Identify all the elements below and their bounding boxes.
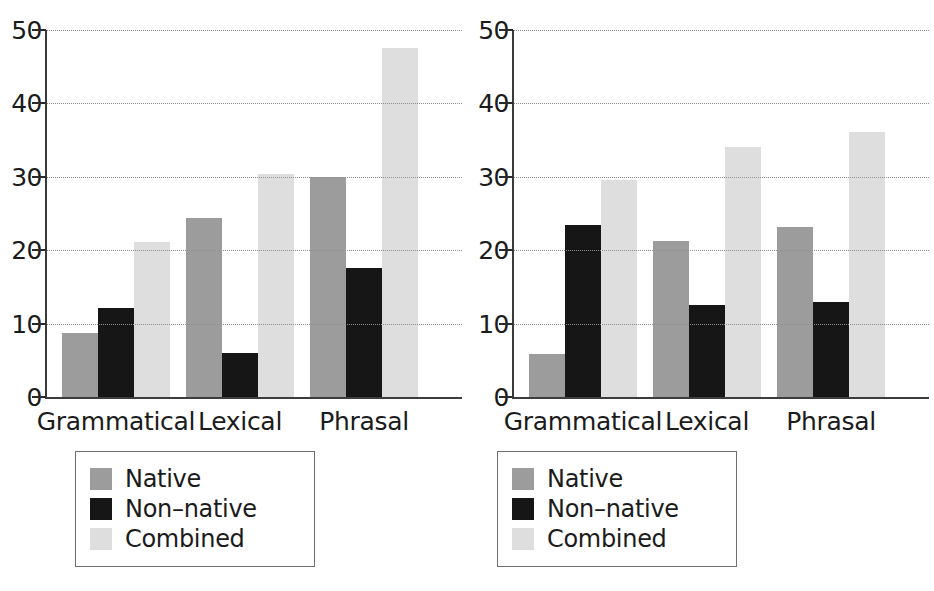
bars-layer-right bbox=[467, 0, 934, 440]
bar-nonnative-phrasal bbox=[346, 268, 382, 397]
bar-combined-phrasal bbox=[849, 132, 885, 397]
x-axis-baseline bbox=[512, 397, 929, 399]
gridline bbox=[45, 30, 462, 31]
y-axis-tick-mark bbox=[499, 176, 513, 178]
y-axis-tick-mark bbox=[32, 102, 46, 104]
legend-label-native: Native bbox=[125, 465, 201, 493]
y-axis-tick-mark bbox=[32, 323, 46, 325]
gridline bbox=[512, 103, 929, 104]
two-panel-bar-chart-figure: 01020304050 GrammaticalLexicalPhrasal Na… bbox=[0, 0, 934, 591]
legend-label-nonnative: Non–native bbox=[547, 495, 679, 523]
bar-native-phrasal bbox=[777, 227, 813, 397]
bars-layer-left bbox=[0, 0, 467, 440]
gridline bbox=[45, 177, 462, 178]
legend-left: Native Non–native Combined bbox=[75, 451, 315, 567]
legend-item: Combined bbox=[512, 524, 720, 554]
gridline bbox=[512, 250, 929, 251]
y-axis-tick-mark bbox=[499, 323, 513, 325]
y-axis-tick-mark bbox=[499, 396, 513, 398]
legend-label-nonnative: Non–native bbox=[125, 495, 257, 523]
bar-native-grammatical bbox=[529, 354, 565, 397]
bar-combined-grammatical bbox=[601, 180, 637, 397]
bar-nonnative-grammatical bbox=[98, 308, 134, 397]
bar-combined-phrasal bbox=[382, 48, 418, 397]
y-axis-tick-mark bbox=[32, 176, 46, 178]
bar-native-phrasal bbox=[310, 177, 346, 397]
gridline bbox=[45, 324, 462, 325]
bar-combined-grammatical bbox=[134, 242, 170, 397]
plot-area-left: 01020304050 GrammaticalLexicalPhrasal bbox=[0, 0, 467, 440]
y-axis-spine bbox=[512, 30, 514, 397]
legend-label-native: Native bbox=[547, 465, 623, 493]
bar-native-lexical bbox=[186, 218, 222, 397]
y-axis-tick-mark bbox=[499, 102, 513, 104]
bar-native-grammatical bbox=[62, 333, 98, 397]
bar-nonnative-lexical bbox=[222, 353, 258, 397]
legend-label-combined: Combined bbox=[125, 525, 245, 553]
legend-item: Native bbox=[512, 464, 720, 494]
x-axis-baseline bbox=[45, 397, 462, 399]
bar-combined-lexical bbox=[725, 147, 761, 397]
bar-native-lexical bbox=[653, 241, 689, 397]
bar-nonnative-phrasal bbox=[813, 302, 849, 397]
y-axis-tick-mark bbox=[32, 29, 46, 31]
legend-swatch-combined-icon bbox=[512, 528, 534, 550]
legend-swatch-native-icon bbox=[90, 468, 112, 490]
legend-swatch-nonnative-icon bbox=[512, 498, 534, 520]
gridline bbox=[512, 177, 929, 178]
y-axis-tick-mark bbox=[499, 29, 513, 31]
gridline bbox=[512, 324, 929, 325]
legend-item: Native bbox=[90, 464, 298, 494]
legend-swatch-nonnative-icon bbox=[90, 498, 112, 520]
gridline bbox=[512, 30, 929, 31]
bar-combined-lexical bbox=[258, 174, 294, 397]
plot-area-right: 01020304050 GrammaticalLexicalPhrasal bbox=[467, 0, 934, 440]
legend-item: Non–native bbox=[512, 494, 720, 524]
y-axis-tick-mark bbox=[32, 396, 46, 398]
legend-item: Non–native bbox=[90, 494, 298, 524]
gridline bbox=[45, 250, 462, 251]
y-axis-tick-mark bbox=[32, 249, 46, 251]
legend-swatch-combined-icon bbox=[90, 528, 112, 550]
bar-nonnative-lexical bbox=[689, 305, 725, 397]
chart-panel-right: 01020304050 GrammaticalLexicalPhrasal Na… bbox=[467, 0, 934, 591]
y-axis-tick-mark bbox=[499, 249, 513, 251]
legend-swatch-native-icon bbox=[512, 468, 534, 490]
legend-item: Combined bbox=[90, 524, 298, 554]
y-axis-spine bbox=[45, 30, 47, 397]
chart-panel-left: 01020304050 GrammaticalLexicalPhrasal Na… bbox=[0, 0, 467, 591]
legend-label-combined: Combined bbox=[547, 525, 667, 553]
legend-right: Native Non–native Combined bbox=[497, 451, 737, 567]
gridline bbox=[45, 103, 462, 104]
